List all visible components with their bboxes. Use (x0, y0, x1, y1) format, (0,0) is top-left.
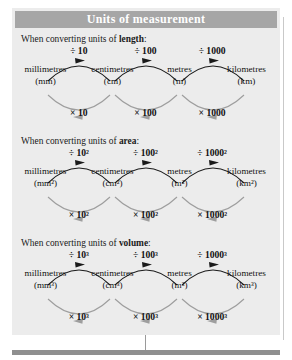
section-area-multiply-factors: × 10² × 100² × 1000² (12, 209, 280, 220)
intro-suffix: : (136, 136, 139, 146)
multiply-factor: × 100² (112, 209, 179, 220)
unit-name: metres (146, 64, 213, 76)
multiply-factor: × 100³ (112, 311, 179, 322)
section-length-units: millimetres (mm) centimetres (cm) metres… (12, 64, 280, 87)
units-of-measurement-panel: Units of measurement When converting uni… (12, 8, 280, 335)
unit-abbr: (km²) (213, 178, 280, 190)
unit-name: centimetres (79, 64, 146, 76)
multiply-factor: × 100 (112, 107, 179, 118)
multiply-factor: × 1000 (179, 107, 246, 118)
unit-name: millimetres (12, 64, 79, 76)
unit-abbr: (cm³) (79, 280, 146, 292)
page-footer-bar (12, 350, 280, 355)
unit-name: kilometres (213, 268, 280, 280)
section-length-multiply-factors: × 10 × 100 × 1000 (12, 107, 280, 118)
section-length-divide-factors: ÷ 10 ÷ 100 ÷ 1000 (12, 45, 280, 56)
unit-column: metres (m) (146, 64, 213, 87)
intro-prefix: When converting units of (21, 136, 119, 146)
unit-abbr: (m²) (146, 178, 213, 190)
unit-column: metres (m³) (146, 268, 213, 291)
section-area-divide-factors: ÷ 10² ÷ 100² ÷ 1000² (12, 147, 280, 158)
section-volume-intro: When converting units of volume: (21, 238, 151, 248)
divide-factor: ÷ 100² (112, 147, 179, 158)
divide-factor: ÷ 100³ (112, 249, 179, 260)
unit-column: kilometres (km) (213, 64, 280, 87)
multiply-factor: × 10² (46, 209, 113, 220)
multiply-factor: × 1000² (179, 209, 246, 220)
section-volume-multiply-factors: × 10³ × 100³ × 1000³ (12, 311, 280, 322)
divide-factor: ÷ 1000³ (179, 249, 246, 260)
intro-suffix: : (144, 34, 147, 44)
section-area-intro: When converting units of area: (21, 136, 139, 146)
intro-prefix: When converting units of (21, 238, 119, 248)
panel-title: Units of measurement (15, 11, 277, 28)
section-volume-units: millimetres (mm³) centimetres (cm³) metr… (12, 268, 280, 291)
unit-name: millimetres (12, 268, 79, 280)
unit-name: millimetres (12, 166, 79, 178)
divide-factor: ÷ 10² (46, 147, 113, 158)
intro-keyword: area (119, 136, 137, 146)
unit-column: centimetres (cm³) (79, 268, 146, 291)
divide-factor: ÷ 10³ (46, 249, 113, 260)
unit-abbr: (mm) (12, 76, 79, 88)
page-right-rule (283, 17, 284, 340)
unit-column: millimetres (mm²) (12, 166, 79, 189)
unit-name: kilometres (213, 64, 280, 76)
unit-abbr: (km) (213, 76, 280, 88)
unit-name: centimetres (79, 268, 146, 280)
section-area-units: millimetres (mm²) centimetres (cm²) metr… (12, 166, 280, 189)
divide-factor: ÷ 100 (112, 45, 179, 56)
unit-column: millimetres (mm³) (12, 268, 79, 291)
section-length-intro: When converting units of length: (21, 34, 147, 44)
unit-name: metres (146, 268, 213, 280)
unit-abbr: (cm) (79, 76, 146, 88)
unit-abbr: (km³) (213, 280, 280, 292)
unit-column: metres (m²) (146, 166, 213, 189)
unit-column: kilometres (km³) (213, 268, 280, 291)
multiply-factor: × 10³ (46, 311, 113, 322)
multiply-factor: × 10 (46, 107, 113, 118)
unit-column: centimetres (cm) (79, 64, 146, 87)
intro-keyword: length (119, 34, 144, 44)
page-root: Units of measurement When converting uni… (0, 0, 292, 360)
divide-factor: ÷ 1000 (179, 45, 246, 56)
multiply-factor: × 1000³ (179, 311, 246, 322)
unit-name: kilometres (213, 166, 280, 178)
unit-abbr: (m) (146, 76, 213, 88)
intro-keyword: volume (119, 238, 148, 248)
unit-column: centimetres (cm²) (79, 166, 146, 189)
section-volume-divide-factors: ÷ 10³ ÷ 100³ ÷ 1000³ (12, 249, 280, 260)
unit-name: metres (146, 166, 213, 178)
panel-footer-connector (145, 335, 146, 350)
divide-factor: ÷ 10 (46, 45, 113, 56)
unit-abbr: (mm²) (12, 178, 79, 190)
divide-factor: ÷ 1000² (179, 147, 246, 158)
intro-prefix: When converting units of (21, 34, 119, 44)
unit-abbr: (cm²) (79, 178, 146, 190)
unit-name: centimetres (79, 166, 146, 178)
unit-column: millimetres (mm) (12, 64, 79, 87)
unit-abbr: (mm³) (12, 280, 79, 292)
unit-column: kilometres (km²) (213, 166, 280, 189)
unit-abbr: (m³) (146, 280, 213, 292)
intro-suffix: : (148, 238, 151, 248)
